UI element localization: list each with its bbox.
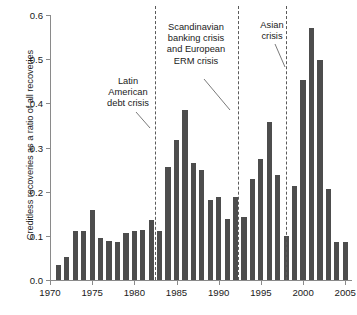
annotation-leader-asian-crisis	[0, 0, 357, 315]
chart-figure: Creditless recoveries as a ratio of all …	[0, 0, 357, 315]
